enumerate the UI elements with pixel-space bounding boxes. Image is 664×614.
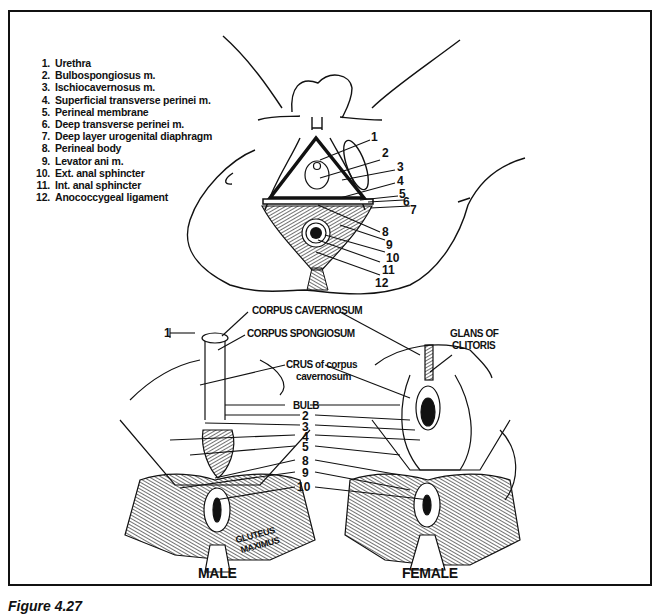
legend-item: 5.Perineal membrane — [30, 106, 212, 118]
legend-item: 2.Bulbospongiosus m. — [30, 69, 212, 81]
male-title: MALE — [198, 565, 236, 581]
callout-center-9: 9 — [302, 466, 309, 480]
legend-item: 6.Deep transverse perinei m. — [30, 118, 212, 130]
callout-center-10: 10 — [297, 480, 310, 494]
female-drawing — [345, 345, 520, 570]
callout-center-5: 5 — [302, 440, 309, 454]
legend-item: 9.Levator ani m. — [30, 155, 212, 167]
female-title: FEMALE — [402, 565, 458, 581]
top-perineum-drawing — [187, 36, 525, 294]
label-male-urethra-1: 1 — [164, 326, 171, 340]
callout-4: 4 — [397, 174, 404, 188]
callout-7: 7 — [410, 203, 417, 217]
callout-2: 2 — [382, 146, 389, 160]
legend-item: 11.Int. anal sphincter — [30, 179, 212, 191]
callout-3: 3 — [397, 160, 404, 174]
label-corpus-cavernosum: CORPUS CAVERNOSUM — [252, 305, 362, 316]
callout-6: 6 — [403, 195, 410, 209]
legend-item: 10.Ext. anal sphincter — [30, 167, 212, 179]
callout-9: 9 — [386, 238, 393, 252]
callout-1: 1 — [371, 130, 378, 144]
legend-item: 8.Perineal body — [30, 142, 212, 154]
legend-item: 7.Deep layer urogenital diaphragm — [30, 130, 212, 142]
legend: 1.Urethra 2.Bulbospongiosus m. 3.Ischioc… — [30, 57, 212, 203]
label-crus-line1: CRUS of corpus — [286, 359, 357, 370]
legend-item: 12.Anococcygeal ligament — [30, 191, 212, 203]
label-crus-line2: cavernosum — [296, 371, 351, 382]
callout-8: 8 — [382, 225, 389, 239]
legend-item: 3.Ischiocavernosus m. — [30, 81, 212, 93]
legend-item: 1.Urethra — [30, 57, 212, 69]
legend-item: 4.Superficial transverse perinei m. — [30, 94, 212, 106]
label-glans-line2: CLITORIS — [452, 340, 495, 351]
label-corpus-spongiosum: CORPUS SPONGIOSUM — [247, 328, 355, 339]
label-glans-line1: GLANS OF — [450, 328, 498, 339]
callout-11: 11 — [382, 263, 395, 277]
callout-12: 12 — [375, 276, 388, 290]
figure-caption: Figure 4.27 — [8, 598, 82, 614]
